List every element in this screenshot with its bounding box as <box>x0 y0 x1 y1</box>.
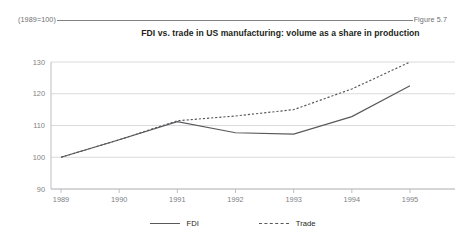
series-line-fdi <box>61 86 410 157</box>
legend-swatch-solid-icon <box>150 223 180 224</box>
y-tick-label: 120 <box>33 89 45 98</box>
y-tick-label: 100 <box>33 153 45 162</box>
legend-label-fdi: FDI <box>187 219 199 228</box>
legend-swatch-dashed-icon <box>259 223 289 224</box>
x-tick-label: 1990 <box>111 195 127 204</box>
y-tick-label: 130 <box>33 58 45 67</box>
legend-label-trade: Trade <box>296 219 316 228</box>
x-tick-label: 1995 <box>402 195 418 204</box>
y-tick-label: 90 <box>37 185 45 194</box>
x-tick-label: 1989 <box>53 195 69 204</box>
legend-item-trade: Trade <box>259 219 316 228</box>
gridlines <box>51 62 455 189</box>
y-axis: 90100110120130 <box>33 58 51 194</box>
x-tick-label: 1994 <box>344 195 360 204</box>
chart-plot-area: 90100110120130 1989199019911992199319941… <box>0 0 465 244</box>
line-chart-svg: 90100110120130 1989199019911992199319941… <box>0 0 465 244</box>
y-tick-label: 110 <box>33 121 45 130</box>
legend-item-fdi: FDI <box>150 219 199 228</box>
x-tick-label: 1993 <box>285 195 301 204</box>
x-axis: 1989199019911992199319941995 <box>51 189 455 204</box>
x-tick-label: 1992 <box>227 195 243 204</box>
x-tick-label: 1991 <box>169 195 185 204</box>
data-series <box>61 62 410 157</box>
chart-legend: FDI Trade <box>0 219 465 228</box>
series-line-trade <box>61 62 410 157</box>
